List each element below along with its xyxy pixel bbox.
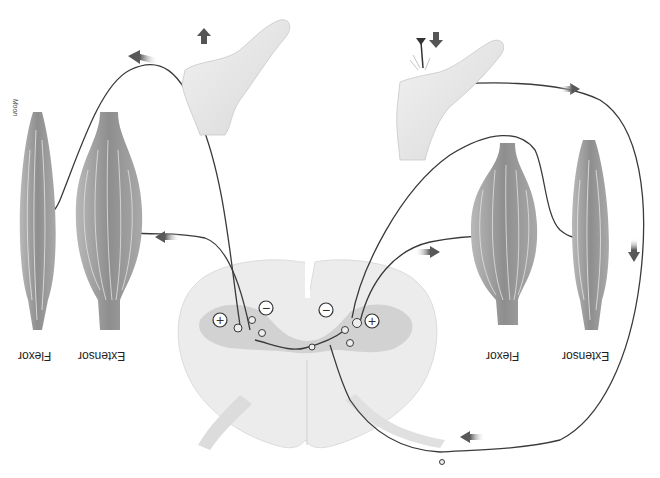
- arrow-left-icon: [155, 231, 180, 243]
- arrow-down-icon: [628, 238, 640, 262]
- right-minus-symbol: −: [322, 302, 330, 318]
- left-minus-symbol: −: [262, 300, 270, 316]
- left-plus-symbol: +: [216, 312, 224, 328]
- left-extensor-label: Extensor: [78, 349, 125, 363]
- right-extensor-muscle: [572, 140, 609, 330]
- arrow-right-icon: [415, 246, 440, 258]
- right-plus-symbol: +: [368, 313, 376, 329]
- arrow-left-icon: [460, 431, 485, 443]
- arrow-down-icon: [429, 32, 443, 48]
- left-foot: [182, 20, 290, 135]
- spinal-cord-cross-section: [178, 260, 445, 450]
- tack-icon: [410, 38, 430, 70]
- right-flexor-label: Flexor: [486, 349, 519, 363]
- reflex-illustration: + − − +: [0, 0, 660, 478]
- right-foot: [397, 38, 504, 160]
- left-extensor-muscle: [76, 112, 142, 330]
- reflex-diagram: + − − +: [0, 0, 660, 478]
- left-flexor-label: Flexor: [18, 349, 51, 363]
- arrow-up-icon: [197, 28, 211, 44]
- arrow-left-icon: [128, 50, 158, 64]
- arrow-right-icon: [560, 83, 580, 95]
- right-extensor-label: Extensor: [562, 349, 609, 363]
- right-flexor-muscle: [471, 143, 537, 325]
- left-flexor-muscle: [20, 112, 56, 330]
- illustrator-credit: Moon: [12, 99, 19, 117]
